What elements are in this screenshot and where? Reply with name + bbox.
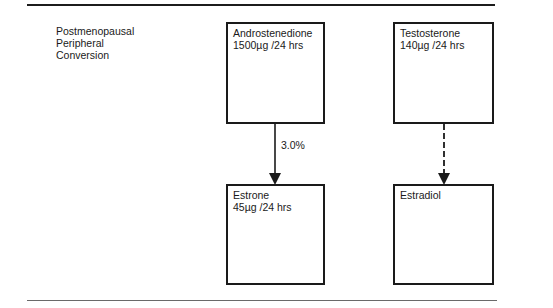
edge-label-conversion-rate: 3.0% bbox=[281, 139, 305, 151]
arrow-solid-androstenedione-estrone bbox=[269, 124, 281, 185]
arrow-dashed-testosterone-estradiol bbox=[438, 124, 450, 185]
bottom-rule bbox=[27, 300, 497, 301]
edges-layer bbox=[0, 0, 553, 308]
